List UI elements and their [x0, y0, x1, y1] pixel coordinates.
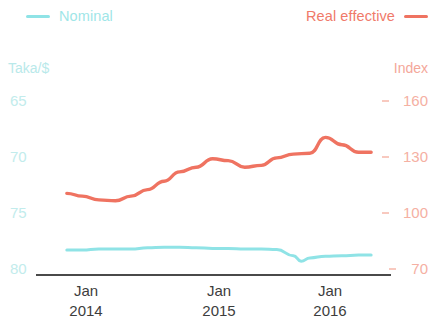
series-line-nominal	[67, 247, 371, 261]
series-line-real-effective	[67, 137, 371, 200]
plot-area	[0, 0, 436, 326]
exchange-rate-chart: Nominal Real effective Taka/$ Index 65 7…	[0, 0, 436, 326]
